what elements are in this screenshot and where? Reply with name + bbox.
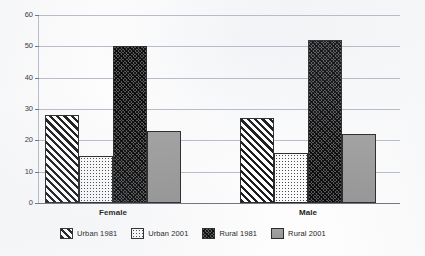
legend-label: Rural 1981	[219, 229, 257, 238]
urban1981-swatch	[60, 228, 73, 239]
y-tick-mark	[35, 203, 39, 204]
gridline-0	[38, 203, 400, 204]
legend-item-rural-2001: Rural 2001	[271, 228, 326, 239]
y-tick-label: 0	[18, 198, 33, 207]
legend-label: Urban 2001	[148, 229, 188, 238]
bar-male-urban-1981	[240, 118, 274, 203]
urban2001-swatch	[131, 228, 144, 239]
y-tick-label: 40	[18, 73, 33, 82]
legend-item-urban-1981: Urban 1981	[60, 228, 117, 239]
legend-label: Rural 2001	[288, 229, 326, 238]
bar-female-urban-2001	[79, 156, 113, 203]
bar-male-urban-2001	[274, 153, 308, 203]
bar-female-urban-1981	[45, 115, 79, 203]
y-tick-label: 60	[18, 10, 33, 19]
rural1981-swatch	[202, 228, 215, 239]
bar-female-rural-2001	[147, 131, 181, 203]
rural2001-swatch	[271, 228, 284, 239]
y-tick-label: 10	[18, 167, 33, 176]
legend-item-rural-1981: Rural 1981	[202, 228, 257, 239]
legend-item-urban-2001: Urban 2001	[131, 228, 188, 239]
chart-legend: Urban 1981Urban 2001Rural 1981Rural 2001	[60, 226, 380, 240]
bar-male-rural-1981	[308, 40, 342, 203]
group-label-female: Female	[73, 208, 153, 217]
plot-area	[38, 15, 400, 203]
bar-chart: 0102030405060 Female Male Urban 1981Urba…	[0, 0, 425, 256]
y-tick-label: 30	[18, 104, 33, 113]
bar-female-rural-1981	[113, 46, 147, 203]
group-label-male: Male	[268, 208, 348, 217]
bar-male-rural-2001	[342, 134, 376, 203]
y-tick-label: 50	[18, 41, 33, 50]
legend-label: Urban 1981	[77, 229, 117, 238]
y-tick-label: 20	[18, 135, 33, 144]
